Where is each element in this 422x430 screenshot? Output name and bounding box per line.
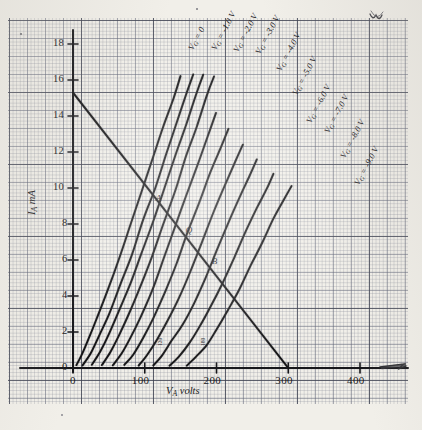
operating-point-label-a: A xyxy=(156,193,162,203)
y-tick-label: 0 xyxy=(62,361,68,372)
x-tick-label: 100 xyxy=(132,374,150,386)
y-tick-label: 10 xyxy=(53,181,64,192)
x-tick-label: 200 xyxy=(204,374,222,386)
characteristic-curve xyxy=(124,129,228,365)
characteristic-curves-group xyxy=(76,75,291,366)
y-axis-title: IA mA xyxy=(26,190,39,215)
characteristic-curve-shadow xyxy=(92,75,203,365)
top-right-scribble xyxy=(370,11,383,19)
y-tick-label: 18 xyxy=(53,37,64,48)
figure-root: 0100200300400 024681012141618 VG = 0VG =… xyxy=(0,0,422,430)
y-tick-label: 4 xyxy=(62,289,68,300)
y-tick-label: 8 xyxy=(62,217,68,228)
x-tick-label: 300 xyxy=(275,374,293,386)
x-tick-label: 0 xyxy=(70,374,76,386)
axes-group xyxy=(20,30,408,373)
y-tick-label: 2 xyxy=(62,325,68,336)
x-axis-title: VA volts xyxy=(166,385,200,398)
x-axis-micro-mark: 180 xyxy=(200,338,206,346)
y-tick-label: 12 xyxy=(53,145,64,156)
characteristic-curve xyxy=(92,75,203,365)
characteristic-curve xyxy=(102,77,214,366)
x-axis-title-unit: volts xyxy=(180,385,200,396)
operating-point-label-q: Q xyxy=(186,225,193,235)
y-tick-label: 16 xyxy=(53,73,64,84)
characteristic-curve-shadow xyxy=(102,77,214,366)
y-tick-label: 14 xyxy=(53,109,64,120)
x-tick-label: 400 xyxy=(347,374,365,386)
x-axis-micro-mark: 120 xyxy=(157,338,163,346)
x-axis-title-subscript: A xyxy=(172,389,177,398)
operating-point-label-b: B xyxy=(212,256,218,266)
y-axis-title-unit: mA xyxy=(26,190,37,204)
characteristic-curve xyxy=(139,145,243,366)
y-axis-title-subscript: A xyxy=(30,207,39,212)
y-axis-title-symbol: I xyxy=(26,212,37,216)
y-tick-label: 6 xyxy=(62,253,68,264)
